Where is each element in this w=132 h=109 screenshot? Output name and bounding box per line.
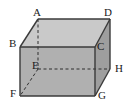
vertex-label-F: F <box>10 88 16 99</box>
prism-drawing <box>0 0 132 109</box>
rectangular-prism-figure: A D B C E H F G <box>0 0 132 109</box>
vertex-label-C: C <box>97 41 104 52</box>
front-face <box>20 47 95 96</box>
vertex-label-G: G <box>98 90 106 101</box>
vertex-label-A: A <box>33 7 41 18</box>
vertex-label-B: B <box>9 38 16 49</box>
vertex-label-D: D <box>104 7 112 18</box>
vertex-label-H: H <box>115 63 123 74</box>
vertex-label-E: E <box>32 60 39 71</box>
